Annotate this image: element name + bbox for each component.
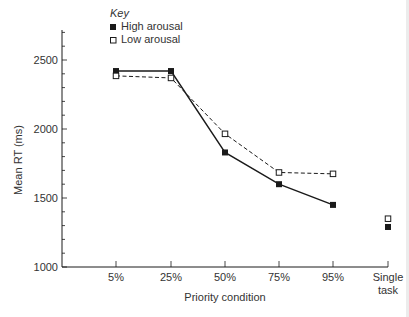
filled-square-marker	[276, 181, 282, 187]
series-high-arousal	[113, 68, 391, 230]
legend-title: Key	[110, 7, 130, 19]
x-tick-label: 95%	[322, 271, 344, 283]
x-tick-label: 25%	[160, 271, 182, 283]
series-low-arousal	[113, 73, 391, 221]
open-square-marker	[385, 216, 391, 222]
legend: Key High arousal Low arousal	[110, 7, 183, 45]
series-line	[116, 76, 333, 174]
y-tick-label: 2000	[34, 123, 58, 135]
legend-filled-square-icon	[110, 24, 116, 30]
filled-square-marker	[222, 149, 228, 155]
line-chart: 1000150020002500 5%25%50%75%95%Singletas…	[0, 0, 409, 317]
x-tick-label: task	[378, 284, 399, 296]
open-square-marker	[330, 171, 336, 177]
filled-square-marker	[385, 224, 391, 230]
axes	[62, 30, 388, 267]
x-tick-label: 5%	[108, 271, 124, 283]
filled-square-marker	[330, 202, 336, 208]
y-axis-label: Mean RT (ms)	[12, 125, 24, 195]
legend-entry-high-arousal: High arousal	[121, 20, 183, 32]
x-tick-label: 50%	[214, 271, 236, 283]
x-axis-label: Priority condition	[184, 291, 265, 303]
open-square-marker	[113, 73, 119, 79]
x-tick-label: Single	[373, 271, 404, 283]
open-square-marker	[222, 131, 228, 137]
x-tick-label: 75%	[268, 271, 290, 283]
y-tick-label: 1000	[34, 261, 58, 273]
open-square-marker	[276, 170, 282, 176]
y-tick-label: 1500	[34, 192, 58, 204]
filled-square-marker	[168, 68, 174, 74]
y-tick-label: 2500	[34, 54, 58, 66]
legend-open-square-icon	[111, 38, 117, 44]
legend-entry-low-arousal: Low arousal	[121, 33, 180, 45]
open-square-marker	[168, 75, 174, 81]
data-series	[113, 68, 391, 230]
series-line	[116, 71, 333, 205]
